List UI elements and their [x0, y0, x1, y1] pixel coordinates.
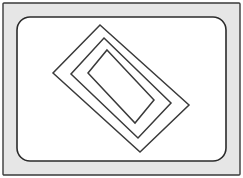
- vector-drawing: [0, 0, 243, 178]
- inner-panel: [17, 17, 226, 161]
- drawing-canvas: [0, 0, 243, 178]
